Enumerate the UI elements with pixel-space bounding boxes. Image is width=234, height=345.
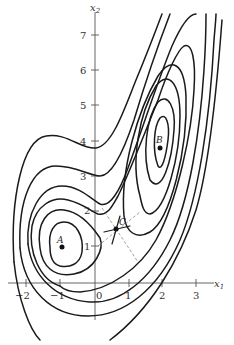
x2-axis-label: x2 [90,2,101,15]
point-a-marker [60,245,65,250]
point-c-marker [114,227,119,232]
contour-outer-1 [31,45,194,292]
contour-a-2 [39,210,101,275]
x-tick-label-m2: −2 [15,290,30,301]
y-tick-label-5: 5 [80,100,86,111]
y-tick-label-1: 1 [84,241,90,252]
contours-around-a [39,210,101,275]
contour-outer-3b [20,14,216,316]
point-a-label: A [56,235,64,245]
point-b-marker [158,146,163,151]
point-b-label: B [155,135,163,145]
contour-outer-2 [28,14,196,244]
contour-outer-4b [14,262,40,340]
x-tick-label-3: 3 [193,290,199,301]
x1-axis-label: x1 [214,278,224,291]
contour-a-1 [50,222,83,266]
contour-outer-2b [28,14,206,302]
contours-outer [13,14,222,340]
y-tick-label-6: 6 [80,65,86,76]
point-c-label: C [119,217,126,227]
contour-plot: 7 6 5 4 3 2 1 −2 −1 0 1 2 3 x2 x1 [0,0,234,345]
y-tick-label-7: 7 [80,30,86,41]
points: A B C [56,135,163,250]
contour-outer-4 [13,14,162,262]
x-tick-label-0: 0 [96,290,102,301]
x-tick-label-2: 2 [159,290,165,301]
